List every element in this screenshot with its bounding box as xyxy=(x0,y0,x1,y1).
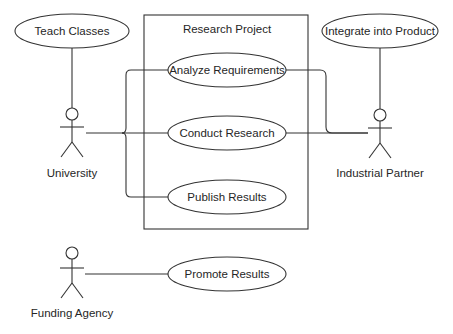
stick-figure-icon xyxy=(60,247,84,298)
actor-label: Industrial Partner xyxy=(336,167,424,179)
actor-label: University xyxy=(47,167,98,179)
assoc-industrial-partner-analyze-requirements[interactable] xyxy=(286,70,368,133)
actor-industrial-partner[interactable]: Industrial Partner xyxy=(336,109,424,179)
use-case-label: Conduct Research xyxy=(179,127,274,139)
stick-figure-icon xyxy=(60,108,84,157)
assoc-university-publish-results[interactable] xyxy=(122,133,169,197)
use-case-label: Promote Results xyxy=(184,268,269,280)
actor-funding-agency[interactable]: Funding Agency xyxy=(31,247,114,319)
use-case-integrate-into-product[interactable]: Integrate into Product xyxy=(322,14,438,48)
system-title: Research Project xyxy=(183,23,272,35)
use-case-promote-results[interactable]: Promote Results xyxy=(168,257,286,291)
use-case-label: Analyze Requirements xyxy=(169,64,285,76)
use-case-label: Teach Classes xyxy=(35,25,110,37)
use-case-label: Publish Results xyxy=(187,191,267,203)
assoc-university-analyze-requirements[interactable] xyxy=(122,70,169,133)
use-case-analyze-requirements[interactable]: Analyze Requirements xyxy=(168,53,286,87)
use-case-label: Integrate into Product xyxy=(325,25,436,37)
use-case-publish-results[interactable]: Publish Results xyxy=(168,180,286,214)
use-case-conduct-research[interactable]: Conduct Research xyxy=(168,116,286,150)
actor-university[interactable]: University xyxy=(47,108,98,179)
actor-label: Funding Agency xyxy=(31,307,114,319)
use-case-diagram: Research Project Teach Classes Integrate… xyxy=(0,0,453,334)
stick-figure-icon xyxy=(368,109,392,158)
use-case-teach-classes[interactable]: Teach Classes xyxy=(15,14,129,48)
